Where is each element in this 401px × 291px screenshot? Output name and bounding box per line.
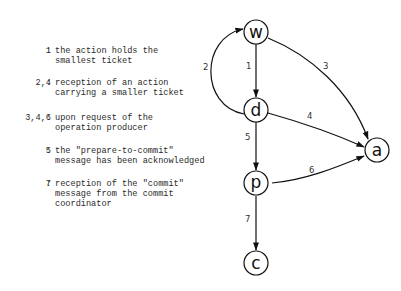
node-c: c [244,251,268,275]
edge-p-c: 7 [245,196,256,250]
edge-d-w: 2 [203,29,244,114]
svg-text:2: 2 [203,62,208,72]
edge-w-d: 1 [246,44,256,97]
svg-text:3: 3 [323,61,328,71]
svg-text:1: 1 [246,61,251,71]
svg-text:7: 7 [245,214,250,224]
svg-text:a: a [372,140,382,160]
edge-w-a: 3 [268,38,368,139]
svg-text:p: p [251,172,262,192]
node-p: p [244,171,268,195]
svg-text:c: c [251,253,260,273]
svg-text:6: 6 [309,165,314,175]
node-d: d [244,98,268,122]
edge-p-a: 6 [272,156,364,183]
state-transition-graph: 1 2 3 4 5 6 7 w d p c a [0,0,401,291]
edge-d-p: 5 [245,122,256,170]
edge-d-a: 4 [268,111,364,147]
svg-text:4: 4 [307,111,312,121]
svg-text:d: d [251,100,262,120]
svg-text:5: 5 [245,132,250,142]
node-a: a [365,138,389,162]
node-w: w [244,20,268,44]
svg-text:w: w [249,22,263,42]
